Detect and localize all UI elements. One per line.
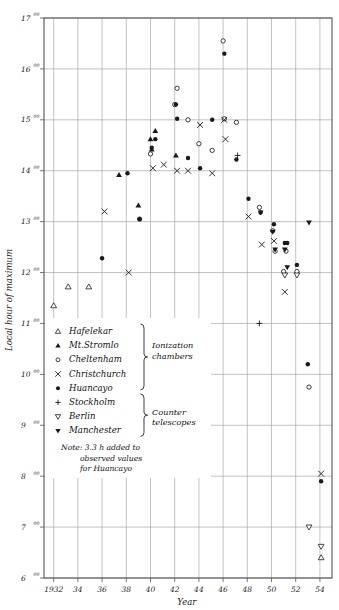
- data-point-stockholm: [256, 321, 262, 327]
- y-tick-superscript: 00: [34, 521, 40, 526]
- legend-label-christchurch: Christchurch: [69, 369, 126, 379]
- data-point-christchurch: [161, 162, 167, 168]
- scatter-plot-svg: 1700160015001400130012001100100090080070…: [0, 0, 339, 610]
- y-tick-label: 10: [21, 370, 31, 379]
- data-point-manchester: [306, 221, 312, 226]
- data-point-cheltenham: [257, 205, 261, 209]
- y-tick-label: 14: [21, 166, 31, 175]
- data-point-mt-stromlo: [116, 172, 122, 177]
- x-tick-label: 42: [169, 585, 180, 594]
- x-tick-label: 46: [217, 585, 228, 594]
- data-point-cheltenham: [210, 148, 214, 152]
- y-tick-superscript: 00: [34, 369, 40, 374]
- data-point-christchurch: [271, 238, 277, 244]
- y-tick-label: 8: [21, 472, 26, 481]
- data-point-huancayo: [137, 217, 141, 221]
- legend-marker-cheltenham: [56, 358, 60, 362]
- data-point-huancayo: [175, 117, 179, 121]
- y-tick-label: 12: [21, 268, 31, 277]
- y-tick-superscript: 00: [34, 63, 40, 68]
- x-tick-label: 52: [291, 585, 301, 594]
- data-point-hafelekar: [51, 303, 57, 308]
- data-point-huancayo: [186, 156, 190, 160]
- data-point-christchurch: [282, 289, 288, 295]
- x-tick-label: 36: [97, 585, 107, 594]
- y-tick-superscript: 00: [34, 267, 40, 272]
- data-point-huancayo: [174, 102, 178, 106]
- chart-note-line1: Note: 3.3 h added to: [60, 443, 141, 452]
- x-tick-label: 1932: [44, 585, 63, 594]
- legend-group-ionization-line2: chambers: [152, 351, 193, 361]
- y-tick-superscript: 00: [34, 572, 40, 577]
- x-tick-label: 38: [122, 585, 132, 594]
- data-point-cheltenham: [307, 385, 311, 389]
- legend-label-huancayo: Huancayo: [68, 383, 113, 393]
- y-tick-label: 11: [21, 319, 31, 328]
- data-point-christchurch: [150, 165, 156, 171]
- data-point-huancayo: [149, 146, 153, 150]
- legend-group-counter-line1: Counter: [152, 407, 187, 417]
- plot-frame: [44, 18, 332, 578]
- x-tick-label: 40: [145, 585, 156, 594]
- y-tick-superscript: 00: [34, 420, 40, 425]
- y-tick-superscript: 00: [34, 114, 40, 119]
- y-tick-superscript: 00: [34, 216, 40, 221]
- legend-label-hafelekar: Hafelekar: [68, 326, 113, 336]
- data-point-christchurch: [318, 471, 324, 477]
- x-tick-label: 48: [242, 585, 253, 594]
- data-point-huancayo: [210, 118, 214, 122]
- x-tick-label: 54: [315, 585, 325, 594]
- data-point-cheltenham: [221, 39, 225, 43]
- data-point-huancayo: [272, 222, 276, 226]
- y-tick-superscript: 00: [34, 471, 40, 476]
- data-point-huancayo: [198, 166, 202, 170]
- y-tick-superscript: 00: [34, 165, 40, 170]
- x-tick-label: 50: [267, 585, 277, 594]
- data-point-huancayo: [285, 241, 289, 245]
- data-point-cheltenham: [148, 152, 152, 156]
- chart-figure: 1700160015001400130012001100100090080070…: [0, 0, 339, 610]
- x-tick-label: 44: [193, 585, 204, 594]
- data-point-hafelekar: [86, 284, 92, 289]
- data-point-mt-stromlo: [152, 128, 158, 133]
- data-point-cheltenham: [234, 120, 238, 124]
- data-point-berlin: [318, 544, 324, 549]
- data-point-huancayo: [100, 256, 104, 260]
- y-tick-label: 15: [21, 115, 31, 124]
- legend-label-mt-stromlo: Mt.Stromlo: [68, 340, 119, 350]
- data-point-christchurch: [223, 136, 229, 142]
- data-point-hafelekar: [318, 555, 324, 560]
- legend-label-cheltenham: Cheltenham: [69, 354, 122, 364]
- y-tick-label: 6: [21, 574, 26, 583]
- y-axis-title: Local hour of maximum: [4, 249, 14, 352]
- y-tick-label: 17: [21, 14, 31, 23]
- legend-group-counter-line2: telescopes: [152, 417, 196, 427]
- data-point-huancayo: [125, 171, 129, 175]
- data-point-hafelekar: [65, 284, 71, 289]
- data-point-christchurch: [259, 242, 265, 248]
- data-point-christchurch: [209, 170, 215, 176]
- y-tick-label: 13: [21, 217, 31, 226]
- data-point-mt-stromlo: [173, 153, 179, 158]
- legend-marker-huancayo: [56, 386, 60, 390]
- legend-label-manchester: Manchester: [68, 425, 122, 435]
- data-point-cheltenham: [197, 142, 201, 146]
- data-point-huancayo: [306, 362, 310, 366]
- y-tick-superscript: 00: [34, 12, 40, 17]
- data-point-christchurch: [246, 214, 252, 220]
- data-point-cheltenham: [175, 86, 179, 90]
- data-point-mt-stromlo: [148, 136, 154, 141]
- data-point-christchurch: [102, 209, 108, 215]
- data-point-huancayo: [153, 137, 157, 141]
- chart-note-line3: for Huancayo: [79, 464, 132, 473]
- data-point-huancayo: [319, 479, 323, 483]
- data-point-berlin: [282, 273, 288, 278]
- y-tick-superscript: 00: [34, 318, 40, 323]
- data-point-christchurch: [197, 122, 203, 128]
- y-tick-label: 7: [21, 523, 26, 532]
- y-tick-label: 9: [21, 421, 26, 430]
- data-point-huancayo: [295, 263, 299, 267]
- data-point-stockholm: [235, 153, 241, 159]
- x-axis-title: Year: [177, 597, 197, 607]
- y-tick-label: 16: [21, 65, 31, 74]
